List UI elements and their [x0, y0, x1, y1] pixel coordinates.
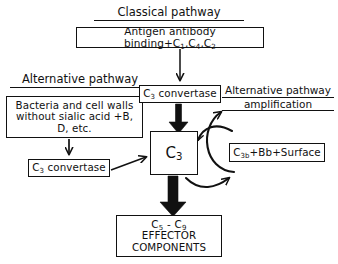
convertase-left-symbol: C — [32, 161, 39, 173]
convertase-left-label: convertase — [44, 161, 106, 173]
antigen-sep-1: ,C — [185, 37, 196, 49]
heading-alternative-pathway-amplification: Alternative pathway amplification — [222, 84, 334, 111]
convertase-top-label: convertase — [155, 87, 217, 99]
node-effector-components: C5 - C9 EFFECTOR COMPONENTS — [116, 215, 222, 257]
c3bbb-sub: 3b — [241, 151, 250, 159]
node-antigen-text: Antigen antibody binding+C1,C4,C2 — [77, 26, 263, 50]
arrow-convertase-left-to-c3 — [111, 157, 146, 170]
effector-c5-symbol: C — [151, 218, 159, 230]
node-bacteria-cell-walls: Bacteria and cell walls without sialic a… — [6, 96, 143, 138]
heading-amplification-line2: amplification — [222, 98, 334, 112]
node-c3-convertase-alternative: C3 convertase — [28, 159, 110, 177]
effector-line-3: COMPONENTS — [132, 242, 206, 254]
heading-alternative-pathway: Alternative pathway — [10, 73, 150, 88]
heading-classical-pathway-text: Classical pathway — [94, 6, 244, 21]
antigen-sub-c2: 2 — [211, 41, 216, 50]
c3-symbol: C — [165, 144, 176, 162]
heading-classical-pathway: Classical pathway — [94, 6, 244, 21]
effector-range-dash: - C — [163, 218, 182, 230]
c3bbb-symbol: C — [233, 146, 240, 158]
arrow-convertase-top-to-c3 — [169, 104, 188, 134]
complement-pathway-diagram: Classical pathway Alternative pathway Al… — [0, 0, 338, 264]
arrow-c3-to-effector — [160, 176, 186, 217]
node-c3b-bb-surface: C3b+Bb+Surface — [229, 143, 325, 162]
c3-text: C3 — [165, 145, 182, 162]
c3bbb-label: +Bb+Surface — [250, 146, 321, 158]
antigen-sep-2: ,C — [200, 37, 211, 49]
heading-amplification-line1: Alternative pathway — [222, 84, 334, 98]
c3bbb-text: C3b+Bb+Surface — [233, 147, 321, 159]
node-antigen-antibody-binding: Antigen antibody binding+C1,C4,C2 — [76, 27, 264, 48]
convertase-top-text: C3 convertase — [143, 88, 216, 100]
node-c3: C3 — [150, 131, 198, 175]
bacteria-line-3: D, etc. — [57, 123, 91, 135]
c3-sub: 3 — [176, 151, 183, 162]
convertase-top-symbol: C — [143, 87, 150, 99]
convertase-left-text: C3 convertase — [32, 162, 105, 174]
node-c3-convertase-classical: C3 convertase — [139, 85, 221, 103]
heading-alternative-pathway-text: Alternative pathway — [10, 73, 150, 88]
